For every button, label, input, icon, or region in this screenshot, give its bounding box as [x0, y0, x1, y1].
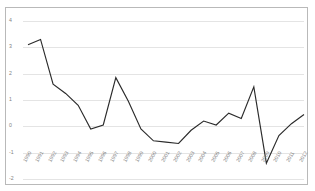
y-axis-tick-label: 1: [9, 97, 22, 102]
y-axis-tick-label: -1: [9, 150, 22, 155]
y-axis-tick-label: 3: [9, 45, 22, 50]
y-axis-tick-label: 2: [9, 71, 22, 76]
line-chart: 43210-1-2 199019911992199319941995199619…: [0, 0, 315, 191]
y-axis-tick-label: 0: [9, 124, 22, 129]
plot-area: 43210-1-2 199019911992199319941995199619…: [6, 8, 307, 184]
series-polyline: [28, 39, 304, 163]
plot-frame: 43210-1-2 199019911992199319941995199619…: [5, 7, 308, 185]
y-axis-tick-label: -2: [9, 176, 22, 181]
y-axis-tick-label: 4: [9, 18, 22, 23]
